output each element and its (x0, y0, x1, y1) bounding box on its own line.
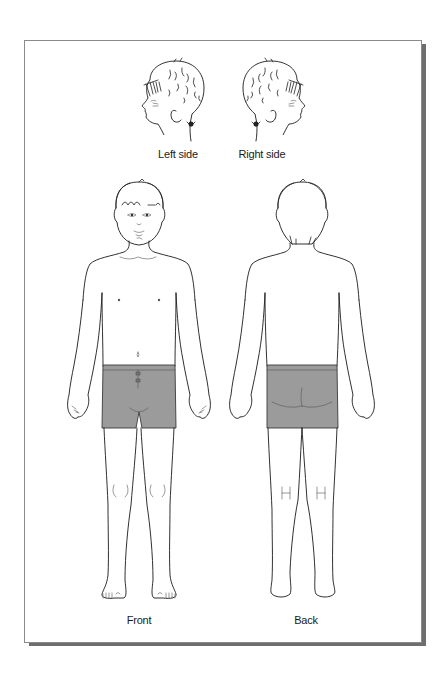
label-front: Front (127, 614, 152, 626)
label-left-side: Left side (158, 148, 198, 160)
body-diagram-art (0, 0, 446, 681)
head-left-side (142, 58, 204, 141)
label-back: Back (294, 614, 318, 626)
label-right-side: Right side (239, 148, 286, 160)
body-front (68, 179, 211, 598)
body-back (230, 179, 375, 597)
head-right-side (243, 58, 305, 141)
